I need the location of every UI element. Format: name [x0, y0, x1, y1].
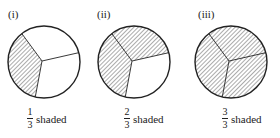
caption: 2 3 shaded: [124, 107, 164, 130]
caption-text: shaded: [231, 113, 262, 125]
numerator: 3: [223, 107, 228, 117]
fraction: 3 3: [222, 107, 228, 130]
pie-circle: [94, 24, 174, 104]
caption: 1 3 shaded: [27, 107, 67, 130]
panel-three-thirds: (iii) 3 3 shaded: [184, 0, 277, 138]
pie-circle: [191, 24, 271, 104]
panel-label: (i): [8, 8, 18, 20]
denominator: 3: [223, 120, 228, 130]
panel-label: (iii): [198, 8, 215, 20]
caption-text: shaded: [133, 113, 164, 125]
denominator: 3: [28, 120, 33, 130]
pie-circle: [4, 24, 84, 104]
panel-label: (ii): [97, 8, 110, 20]
denominator: 3: [125, 120, 130, 130]
panel-one-third: (i) 1 3 shaded: [0, 0, 93, 138]
panel-two-thirds: (ii) 2 3 shaded: [92, 0, 185, 138]
caption: 3 3 shaded: [222, 107, 262, 130]
numerator: 2: [125, 107, 130, 117]
fraction: 2 3: [124, 107, 130, 130]
caption-text: shaded: [36, 113, 67, 125]
fraction: 1 3: [27, 107, 33, 130]
numerator: 1: [28, 107, 33, 117]
